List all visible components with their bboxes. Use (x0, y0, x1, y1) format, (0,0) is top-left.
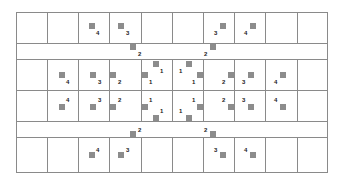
grid-column-divider (172, 12, 173, 43)
marker-square (248, 72, 254, 78)
grid-column-divider (297, 59, 298, 90)
grid-row-divider (16, 43, 328, 44)
grid-column-divider (172, 90, 173, 121)
marker-square (142, 104, 148, 110)
marker-label: 2 (204, 51, 207, 57)
grid-row-divider (16, 121, 328, 122)
marker-square (89, 23, 95, 29)
grid-column-divider (78, 12, 79, 43)
marker-square (186, 61, 192, 67)
grid-column-divider (234, 90, 235, 121)
marker-square (90, 104, 96, 110)
marker-label: 3 (214, 30, 217, 36)
marker-label: 2 (118, 97, 121, 103)
marker-label: 1 (160, 108, 163, 114)
grid-column-divider (109, 12, 110, 43)
grid-column-divider (78, 90, 79, 121)
marker-square (248, 104, 254, 110)
grid-column-divider (141, 137, 142, 173)
grid-column-divider (203, 90, 204, 121)
marker-label: 4 (66, 79, 69, 85)
marker-label: 3 (242, 79, 245, 85)
grid-column-divider (234, 137, 235, 173)
grid-column-divider (265, 90, 266, 121)
grid-column-divider (141, 12, 142, 43)
grid-column-divider (203, 59, 204, 90)
marker-label: 1 (192, 97, 195, 103)
marker-square (250, 23, 256, 29)
marker-square (89, 152, 95, 158)
grid-column-divider (47, 59, 48, 90)
grid-column-divider (78, 137, 79, 173)
marker-square (220, 152, 226, 158)
grid-column-divider (172, 59, 173, 90)
marker-label: 3 (126, 30, 129, 36)
grid-column-divider (234, 59, 235, 90)
grid-column-divider (203, 137, 204, 173)
marker-label: 4 (274, 97, 277, 103)
marker-label: 4 (244, 147, 247, 153)
grid-column-divider (47, 90, 48, 121)
marker-label: 4 (244, 30, 247, 36)
grid-column-divider (265, 137, 266, 173)
marker-label: 1 (179, 68, 182, 74)
marker-label: 2 (222, 97, 225, 103)
grid-column-divider (109, 137, 110, 173)
marker-label: 1 (160, 68, 163, 74)
marker-square (250, 152, 256, 158)
marker-square (142, 72, 148, 78)
marker-label: 4 (96, 147, 99, 153)
marker-square (220, 23, 226, 29)
grid-column-divider (297, 90, 298, 121)
marker-square (228, 72, 234, 78)
marker-label: 1 (149, 97, 152, 103)
marker-label: 1 (149, 79, 152, 85)
marker-label: 4 (274, 79, 277, 85)
marker-square (280, 104, 286, 110)
marker-square (210, 131, 216, 137)
marker-square (280, 72, 286, 78)
marker-square (110, 72, 116, 78)
marker-square (118, 152, 124, 158)
marker-label: 4 (96, 30, 99, 36)
grid-column-divider (297, 137, 298, 173)
grid-column-divider (172, 137, 173, 173)
marker-label: 2 (204, 127, 207, 133)
marker-square (59, 72, 65, 78)
marker-label: 3 (98, 97, 101, 103)
marker-square (153, 115, 159, 121)
marker-square (228, 104, 234, 110)
marker-square (197, 72, 203, 78)
grid-column-divider (203, 12, 204, 43)
marker-label: 2 (138, 51, 141, 57)
marker-square (197, 104, 203, 110)
grid-column-divider (265, 12, 266, 43)
marker-label: 2 (222, 79, 225, 85)
marker-label: 3 (214, 147, 217, 153)
marker-square (210, 44, 216, 50)
marker-label: 2 (138, 127, 141, 133)
grid-column-divider (234, 12, 235, 43)
marker-label: 3 (242, 97, 245, 103)
marker-square (118, 23, 124, 29)
marker-label: 3 (98, 79, 101, 85)
grid-column-divider (297, 12, 298, 43)
grid-column-divider (265, 59, 266, 90)
marker-square (59, 104, 65, 110)
marker-square (130, 131, 136, 137)
marker-square (153, 61, 159, 67)
marker-label: 4 (66, 97, 69, 103)
marker-label: 3 (126, 147, 129, 153)
marker-square (186, 115, 192, 121)
grid-column-divider (47, 137, 48, 173)
marker-square (130, 44, 136, 50)
grid-column-divider (78, 59, 79, 90)
marker-label: 2 (118, 79, 121, 85)
marker-square (110, 104, 116, 110)
marker-label: 1 (179, 108, 182, 114)
marker-label: 1 (192, 79, 195, 85)
grid-column-divider (47, 12, 48, 43)
marker-square (90, 72, 96, 78)
